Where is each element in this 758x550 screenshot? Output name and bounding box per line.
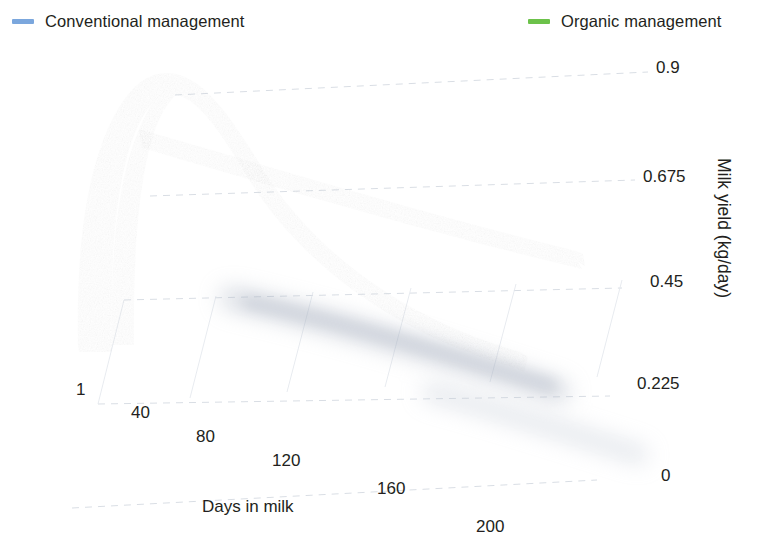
- y-tick-0.675: 0.675: [643, 168, 686, 185]
- gridline-x-40: [190, 296, 216, 398]
- x-tick-40: 40: [131, 404, 150, 421]
- gridline-x-200: [597, 280, 622, 377]
- x-tick-160: 160: [377, 480, 405, 497]
- ribbon-organic-top: [139, 129, 578, 262]
- y-tick-0: 0: [661, 467, 670, 484]
- x-tick-1: 1: [76, 381, 85, 398]
- x-tick-80: 80: [196, 428, 215, 445]
- x-axis-title: Days in milk: [202, 498, 294, 515]
- y-tick-0.225: 0.225: [637, 375, 680, 392]
- plot-area: [0, 0, 758, 550]
- y-axis-title: Milk yield (kg/day): [713, 158, 734, 298]
- y-tick-0.45: 0.45: [650, 273, 683, 290]
- chart-canvas: Conventional management Organic manageme…: [0, 0, 758, 550]
- y-tick-0.9: 0.9: [656, 59, 680, 76]
- x-tick-200: 200: [476, 518, 504, 535]
- gridline-0.9: [175, 72, 648, 95]
- ribbon-organic[interactable]: [139, 129, 585, 269]
- ribbon-conventional-start-cap: [78, 345, 112, 352]
- ribbon-organic-side: [141, 141, 582, 269]
- gridline-0.675: [150, 180, 635, 196]
- gridline-0.225: [98, 396, 610, 404]
- x-tick-120: 120: [272, 452, 300, 469]
- gridline-0: [72, 480, 597, 508]
